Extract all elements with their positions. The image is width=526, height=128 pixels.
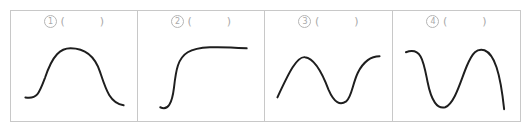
wave-curve-icon <box>265 11 392 121</box>
inverted-wave-curve-icon <box>393 11 520 121</box>
sigmoid-curve-icon <box>138 11 264 121</box>
panel-1: 1 ( ) <box>11 11 138 121</box>
panel-3: 3 ( ) <box>265 11 393 121</box>
bell-curve-icon <box>11 11 137 121</box>
panel-2: 2 ( ) <box>138 11 265 121</box>
panel-4: 4 ( ) <box>393 11 520 121</box>
curve-options-table: 1 ( ) 2 ( ) 3 ( ) 4 ( ) <box>10 10 521 122</box>
